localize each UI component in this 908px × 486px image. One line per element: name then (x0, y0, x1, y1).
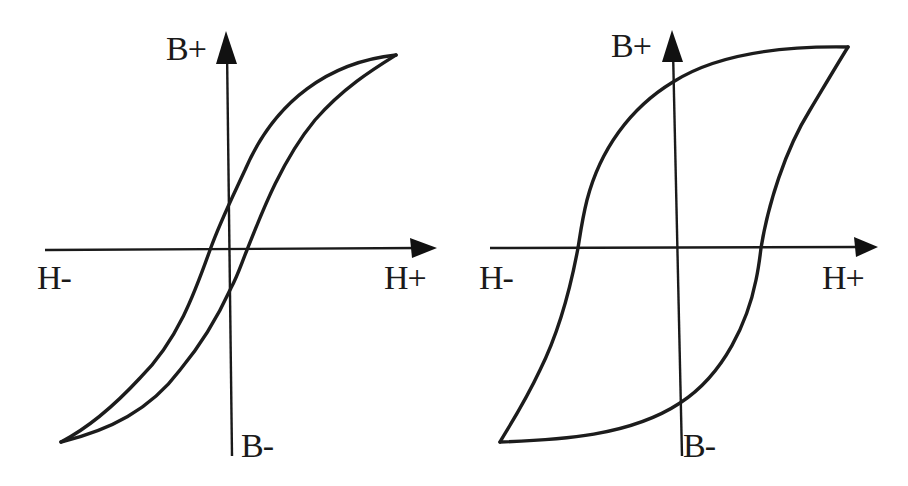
b-axis-left (227, 50, 232, 456)
h-minus-label-left: H- (37, 261, 71, 295)
narrow-loop-panel (45, 31, 437, 456)
h-minus-label-right: H- (479, 261, 513, 295)
hysteresis-diagram: B+ H- H+ B- B+ H- H+ B- (0, 0, 908, 486)
b-axis-right (673, 50, 682, 456)
h-axis-left (45, 248, 420, 250)
b-axis-arrow-icon-right (662, 30, 683, 62)
h-plus-label-left: H+ (384, 261, 426, 295)
b-axis-arrow-icon-left (216, 31, 237, 64)
h-axis-right (490, 247, 862, 248)
wide-loop-panel (490, 30, 878, 456)
b-plus-label-right: B+ (611, 29, 651, 63)
h-axis-arrow-icon-left (410, 238, 437, 258)
h-axis-arrow-icon-right (854, 237, 878, 257)
b-plus-label-left: B+ (166, 32, 206, 66)
b-minus-label-right: B- (683, 429, 715, 463)
b-minus-label-left: B- (241, 429, 273, 463)
h-plus-label-right: H+ (822, 261, 864, 295)
diagram-canvas (0, 0, 908, 486)
